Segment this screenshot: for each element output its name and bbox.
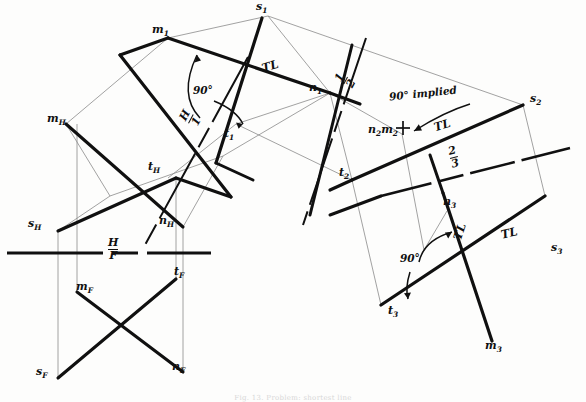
line-m1-back <box>120 38 168 55</box>
projector-t1-t2 <box>236 124 352 180</box>
line-aux1-diagonal <box>120 55 231 197</box>
line-t2-ext <box>330 180 352 190</box>
label-t1: t1 <box>224 128 234 142</box>
angle-indicator-aux3 <box>404 232 452 299</box>
label-m1: m1 <box>152 24 169 38</box>
label-angle-90-aux1: 90° <box>193 85 213 96</box>
label-angle-90-aux3: 90° <box>400 253 420 264</box>
line-aux1-st-lower <box>216 163 253 180</box>
label-sH: sH <box>28 218 41 232</box>
fold-label-HF-upper: H <box>108 238 118 249</box>
line-n3-m3 <box>443 193 492 341</box>
line-s1-t1 <box>216 18 262 163</box>
projector-m1-s1 <box>168 16 268 38</box>
projector-s2-down <box>523 105 545 196</box>
label-n3: n3 <box>443 196 456 210</box>
projector-band1-lower <box>66 124 110 196</box>
label-sF: sF <box>36 366 48 380</box>
line-s2-t2-TL <box>352 105 523 180</box>
fold-label-HF-lower: F <box>108 251 118 262</box>
label-s3: s3 <box>551 242 562 256</box>
label-t3: t3 <box>388 305 398 319</box>
fold-line-12 <box>303 38 366 225</box>
fold-label-HF: H F <box>108 238 118 262</box>
angle-arc-aux3 <box>419 232 452 262</box>
line-mF-nF <box>77 292 183 372</box>
label-n1: n1 <box>309 82 322 96</box>
point-marker-n2m2 <box>396 121 410 135</box>
label-n2m2: n2m2 <box>368 124 398 138</box>
label-s1: s1 <box>256 1 267 15</box>
projector-mH-m1 <box>66 38 168 124</box>
drawing-sheet: m1 s1 n1 t1 mH tH sH nH mF tF sF nF s2 t… <box>0 0 586 402</box>
figure-caption: Fig. 13. Problem: shortest line <box>0 394 586 402</box>
projector-sH-corner <box>58 196 110 231</box>
label-nF: nF <box>172 361 185 375</box>
label-mF: mF <box>76 281 93 295</box>
label-tH: tH <box>148 161 160 175</box>
line-n3-up-ext <box>430 155 443 193</box>
label-mH: mH <box>47 113 66 127</box>
aux3-view-lines <box>330 155 545 341</box>
angle-arrow-aux3-down <box>404 293 411 299</box>
label-s2: s2 <box>530 93 541 107</box>
horizontal-view-lines <box>58 124 231 231</box>
projector-n3-up <box>424 211 447 250</box>
label-nH: nH <box>159 215 174 229</box>
label-tF: tF <box>174 266 184 280</box>
projector-n1-t1 <box>236 93 330 124</box>
label-m3: m3 <box>485 340 502 354</box>
line-aux3-left-stub <box>330 196 381 215</box>
line-mH-nH <box>66 124 183 227</box>
label-t2: t2 <box>339 167 349 181</box>
